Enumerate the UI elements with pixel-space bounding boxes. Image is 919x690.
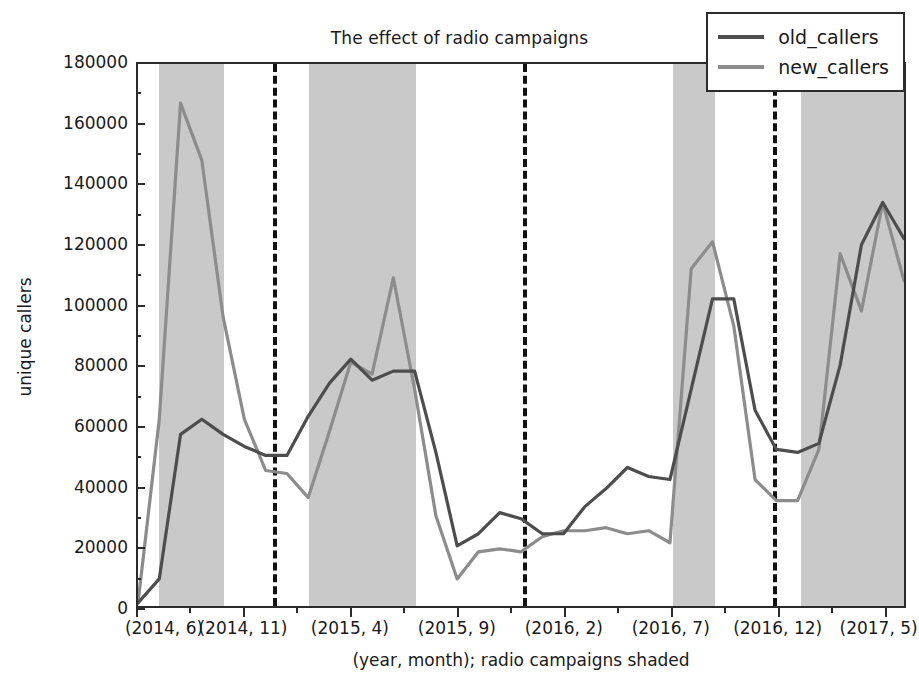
legend-item-old-callers: old_callers [718,22,889,52]
y-axis-tick-label: 20000 [8,537,128,557]
series-lines [138,64,904,606]
y-axis-minor-tick [136,578,141,580]
y-axis-tick-label: 60000 [8,416,128,436]
plot-area [136,62,906,608]
x-axis-tick-label: (2014, 11) [198,618,287,638]
y-axis-tick [136,183,145,185]
y-axis-tick-label: 140000 [8,173,128,193]
x-axis-tick [778,608,780,617]
y-axis-tick [136,487,145,489]
y-axis-tick [136,426,145,428]
x-axis-minor-tick [617,608,619,613]
line-old-callers [138,203,904,603]
y-axis-tick [136,244,145,246]
x-axis-tick-label: (2015, 4) [311,618,389,638]
y-axis-tick-label: 160000 [8,113,128,133]
legend-swatch-new-callers [718,65,764,69]
x-axis-minor-tick [403,608,405,613]
x-axis-tick [885,608,887,617]
x-axis-tick-label: (2016, 7) [632,618,710,638]
y-axis-minor-tick [136,153,141,155]
x-axis-tick [457,608,459,617]
y-axis-minor-tick [136,517,141,519]
x-axis-tick-label: (2014, 6) [125,618,203,638]
legend-item-new-callers: new_callers [718,52,889,82]
legend-label-new-callers: new_callers [778,56,889,78]
y-axis-minor-tick [136,214,141,216]
y-axis-minor-tick [136,92,141,94]
x-axis-minor-tick [189,608,191,613]
x-axis-tick [136,608,138,617]
x-axis-minor-tick [510,608,512,613]
x-axis-tick-label: (2016, 12) [733,618,822,638]
y-axis-minor-tick [136,456,141,458]
line-new-callers [138,103,904,603]
x-axis-tick [350,608,352,617]
x-axis-tick-label: (2015, 9) [418,618,496,638]
x-axis-tick [671,608,673,617]
legend-swatch-old-callers [718,35,764,39]
y-axis-tick [136,547,145,549]
y-axis-tick-label: 100000 [8,295,128,315]
x-axis-minor-tick [296,608,298,613]
x-axis-minor-tick [831,608,833,613]
x-axis-tick-label: (2017, 5) [840,618,918,638]
y-axis-tick-label: 180000 [8,52,128,72]
y-axis-tick [136,305,145,307]
chart-legend: old_callers new_callers [706,12,905,92]
y-axis-tick-label: 80000 [8,355,128,375]
y-axis-minor-tick [136,396,141,398]
x-axis-tick [243,608,245,617]
figure: The effect of radio campaigns unique cal… [0,0,919,690]
y-axis-tick-labels: 0200004000060000800001000001200001400001… [0,62,128,608]
x-axis-tick [564,608,566,617]
legend-label-old-callers: old_callers [778,26,879,48]
y-axis-tick-label: 40000 [8,477,128,497]
y-axis-tick [136,123,145,125]
x-axis-label: (year, month); radio campaigns shaded [136,650,906,670]
y-axis-tick [136,365,145,367]
y-axis-minor-tick [136,335,141,337]
y-axis-tick-label: 0 [8,598,128,618]
x-axis-minor-tick [724,608,726,613]
y-axis-tick [136,62,145,64]
y-axis-minor-tick [136,274,141,276]
x-axis-tick-label: (2016, 2) [525,618,603,638]
y-axis-tick-label: 120000 [8,234,128,254]
